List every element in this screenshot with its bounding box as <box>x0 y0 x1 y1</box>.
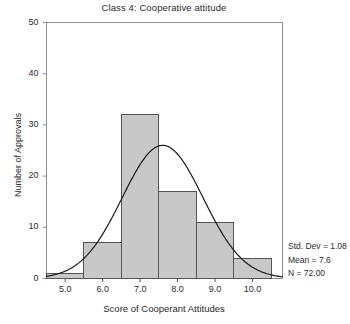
y-tick-label: 0 <box>9 273 39 283</box>
histogram-bar <box>159 191 196 278</box>
y-tick-label: 30 <box>9 119 39 129</box>
x-axis-title: Score of Cooperant Attitudes <box>46 303 282 314</box>
histogram-figure: Class 4: Cooperative attitude Number of … <box>0 0 350 324</box>
histogram-bar <box>121 115 158 279</box>
y-tick-label: 50 <box>9 17 39 27</box>
x-tick-label: 5.0 <box>48 284 82 294</box>
x-tick-label: 9.0 <box>198 284 232 294</box>
sample-size-label: N = 72.00 <box>288 267 350 281</box>
mean-label: Mean = 7.6 <box>288 254 350 268</box>
y-tick-label: 40 <box>9 68 39 78</box>
x-tick-label: 6.0 <box>86 284 120 294</box>
statistics-annotation: Std. Dev = 1.08 Mean = 7.6 N = 72.00 <box>288 240 350 281</box>
std-dev-label: Std. Dev = 1.08 <box>288 240 350 254</box>
histogram-bar <box>234 258 271 278</box>
x-tick-label: 7.0 <box>123 284 157 294</box>
x-tick-label: 10.0 <box>236 284 270 294</box>
chart-screenshot: Class 4: Cooperative attitude Number of … <box>0 0 350 324</box>
histogram-bar <box>47 273 84 278</box>
histogram-bar <box>84 243 121 279</box>
y-tick-label: 10 <box>9 221 39 231</box>
x-tick-label: 8.0 <box>161 284 195 294</box>
y-axis-title: Number of Approvals <box>13 90 23 220</box>
y-tick-label: 20 <box>9 170 39 180</box>
histogram-bar <box>196 222 233 278</box>
